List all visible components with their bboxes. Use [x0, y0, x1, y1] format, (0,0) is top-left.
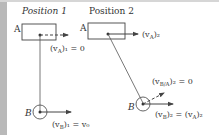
position-2-group: Position 2 A (vA)₂ B (vB/A)₂ = 0 (vB)₂ =… — [79, 6, 203, 120]
block-a-label-1: A — [13, 24, 21, 34]
diagram-frame: Position 1 A (vA)₁ = 0 B (vB)₁ = v₀ Posi… — [0, 0, 219, 135]
ball-b-label-2: B — [127, 102, 135, 112]
block-a-label-2: A — [79, 23, 87, 33]
vb2-label: (vB)₂ = (vA)₂ — [155, 110, 203, 120]
block-a-1 — [22, 24, 56, 40]
block-a-2 — [88, 23, 125, 39]
position-2-heading: Position 2 — [89, 6, 134, 16]
ball-b-label-1: B — [24, 108, 32, 118]
pendulum-diagram: Position 1 A (vA)₁ = 0 B (vB)₁ = v₀ Posi… — [0, 0, 219, 135]
position-1-heading: Position 1 — [21, 6, 67, 16]
va1-label: (vA)₁ = 0 — [50, 44, 85, 54]
rod-2 — [108, 34, 143, 103]
vba2-dashed-arrow — [143, 93, 164, 104]
position-1-group: Position 1 A (vA)₁ = 0 B (vB)₁ = v₀ — [13, 6, 90, 130]
vba2-label: (vB/A)₂ = 0 — [152, 77, 193, 87]
vb1-label: (vB)₁ = v₀ — [52, 120, 90, 130]
va2-label: (vA)₂ — [142, 30, 160, 40]
